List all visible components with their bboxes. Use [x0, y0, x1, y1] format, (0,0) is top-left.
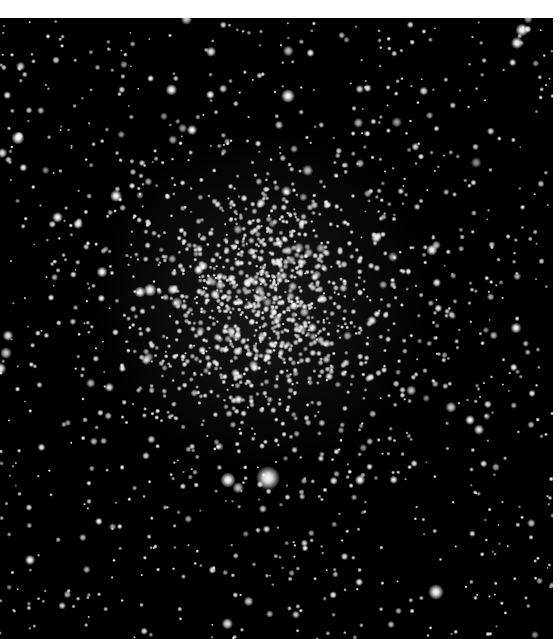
- globular-cluster-image: [0, 18, 553, 639]
- star-field-photo: [0, 18, 553, 639]
